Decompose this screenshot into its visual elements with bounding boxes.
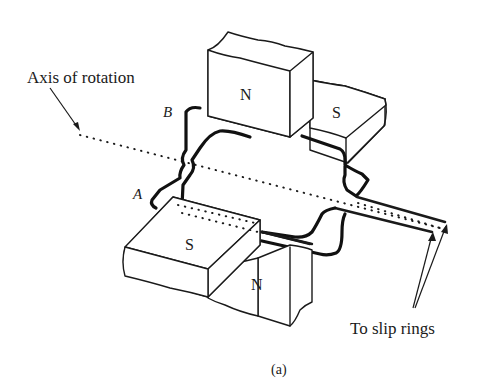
magnet-s-bottom-label: S: [185, 236, 194, 253]
axis-of-rotation-line: [80, 135, 440, 228]
axis-pointer-arrow: [50, 88, 78, 128]
magnet-s-top-label: S: [332, 104, 341, 121]
magnet-n-top-label: N: [240, 86, 252, 103]
magnet-top-back-s: [310, 80, 386, 164]
slip-ring-arrowhead-2-icon: [441, 224, 448, 234]
point-a-label: A: [132, 186, 143, 202]
magnet-n-bottom-label: N: [251, 276, 263, 293]
coil-lower-right: [262, 208, 335, 237]
coil-inner-loop: [182, 131, 250, 206]
axis-of-rotation-label: Axis of rotation: [27, 68, 135, 87]
point-b-label: B: [163, 104, 172, 120]
slip-rings-label: To slip rings: [350, 319, 435, 338]
magnet-top-front-n: [208, 32, 313, 137]
figure-caption: (a): [271, 362, 287, 378]
slip-ring-arrowhead-1-icon: [428, 232, 436, 241]
slip-ring-lead-lower: [335, 208, 432, 232]
slip-ring-lead-upper: [357, 197, 445, 222]
generator-diagram: Axis of rotation To slip rings B A N S S…: [0, 0, 493, 392]
